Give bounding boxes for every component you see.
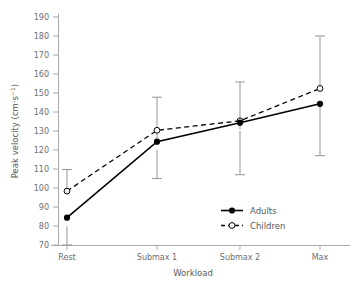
data-point-adults-submax-2 [237, 120, 243, 126]
y-axis-title-tail: ) [10, 84, 20, 87]
legend-marker-adults [229, 207, 235, 213]
y-tick-label: 90 [39, 203, 49, 212]
error-bars-children [62, 36, 325, 191]
y-tick-label: 120 [34, 146, 49, 155]
y-axis-title: Peak velocity (cm·s−1) [9, 84, 20, 178]
series-line-children [67, 89, 320, 192]
series-line-adults [67, 104, 320, 218]
legend-item-children: Children [221, 221, 285, 231]
x-tick-label-submax-1: Submax 1 [137, 253, 177, 262]
data-point-children-submax-1 [154, 127, 160, 133]
svg-text:Peak velocity (cm·s−1): Peak velocity (cm·s−1) [9, 84, 20, 178]
data-point-children-rest [64, 188, 70, 194]
y-tick-label: 180 [34, 32, 49, 41]
x-tick-label-rest: Rest [58, 253, 75, 262]
x-axis-ticks [67, 246, 320, 251]
data-point-adults-rest [64, 215, 70, 221]
y-tick-label: 140 [34, 108, 49, 117]
chart-legend: Adults Children [221, 206, 285, 231]
legend-label-children: Children [250, 221, 285, 231]
x-axis-title: Workload [173, 268, 213, 278]
chart-figure: 190 180 170 160 150 140 130 120 110 100 … [0, 0, 355, 285]
y-tick-label: 170 [34, 51, 49, 60]
y-tick-label: 150 [34, 89, 49, 98]
y-axis-title-main: Peak velocity (cm·s [10, 95, 20, 178]
x-axis-tick-labels: Rest Submax 1 Submax 2 Max [58, 253, 328, 262]
legend-marker-children [229, 223, 235, 229]
data-point-children-max [317, 86, 323, 92]
y-tick-label: 110 [34, 165, 49, 174]
legend-item-adults: Adults [221, 206, 277, 216]
y-tick-label: 100 [34, 184, 49, 193]
x-tick-label-max: Max [312, 253, 329, 262]
y-axis-tick-labels: 190 180 170 160 150 140 130 120 110 100 … [34, 13, 49, 250]
series-markers-adults [64, 101, 323, 221]
y-axis-ticks [53, 17, 59, 245]
y-tick-label: 130 [34, 127, 49, 136]
data-point-adults-submax-1 [154, 139, 160, 145]
series-markers-children [64, 86, 323, 194]
data-point-adults-max [317, 101, 323, 107]
y-axis-title-exponent: −1 [9, 87, 16, 96]
y-tick-label: 160 [34, 70, 49, 79]
x-tick-label-submax-2: Submax 2 [220, 253, 260, 262]
y-tick-label: 70 [39, 241, 49, 250]
y-tick-label: 190 [34, 13, 49, 22]
peak-velocity-line-chart: 190 180 170 160 150 140 130 120 110 100 … [0, 0, 355, 285]
error-bars-adults [62, 104, 325, 245]
y-tick-label: 80 [39, 222, 49, 231]
legend-label-adults: Adults [250, 206, 277, 216]
